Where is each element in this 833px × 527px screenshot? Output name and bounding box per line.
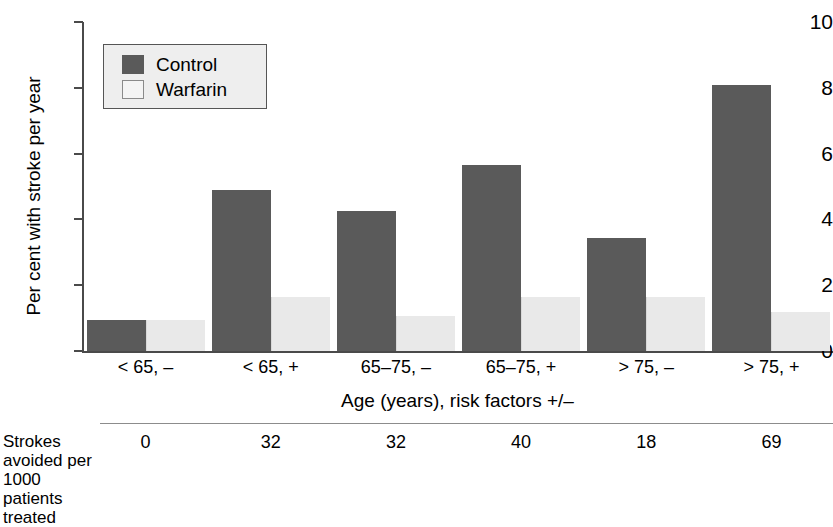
legend-swatch-warfarin-icon: [122, 80, 144, 99]
legend: Control Warfarin: [103, 44, 267, 109]
annotation-divider: [100, 423, 833, 424]
x-axis-line: [82, 351, 833, 353]
bar-warfarin-5: [646, 297, 705, 351]
bar-warfarin-4: [521, 297, 580, 351]
bar-warfarin-3: [396, 316, 455, 351]
bar-warfarin-1: [146, 320, 205, 351]
legend-label-control: Control: [156, 55, 217, 74]
legend-entry-control: Control: [122, 52, 266, 77]
bar-control-1: [87, 320, 146, 351]
bar-control-6: [712, 85, 771, 351]
bar-control-5: [587, 238, 646, 352]
y-axis-title: Per cent with stroke per year: [23, 16, 45, 376]
bar-control-4: [462, 165, 521, 351]
bar-control-3: [337, 211, 396, 351]
bar-warfarin-6: [771, 312, 830, 351]
annotation-label-line: treated: [3, 508, 103, 527]
legend-label-warfarin: Warfarin: [156, 80, 227, 99]
x-axis-title: Age (years), risk factors +/–: [82, 390, 833, 412]
annotation-row-values: 03232401869: [82, 432, 833, 454]
bar-control-2: [212, 190, 271, 351]
bar-warfarin-2: [271, 297, 330, 351]
legend-entry-warfarin: Warfarin: [122, 77, 266, 102]
legend-swatch-control-icon: [122, 55, 144, 74]
annotation-value: 69: [691, 432, 833, 453]
x-axis-tick-label: > 75, +: [691, 357, 833, 378]
annotation-label-line: 1000 patients: [3, 470, 103, 508]
x-axis-tick-labels: < 65, –< 65, +65–75, –65–75, +> 75, –> 7…: [82, 357, 833, 383]
